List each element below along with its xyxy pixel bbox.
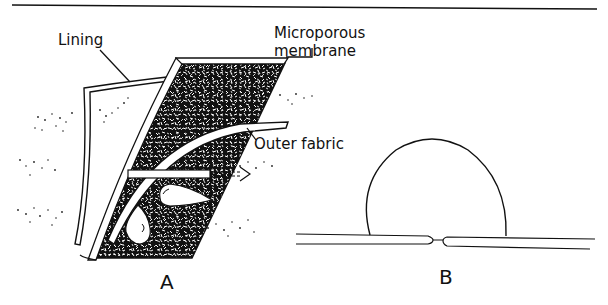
panel-label-b: B (439, 265, 453, 289)
top-rule (12, 5, 597, 9)
label-outer-fabric: Outer fabric (254, 137, 344, 153)
panel-a-drawing (17, 48, 313, 260)
water-droplet-dome (366, 139, 506, 236)
label-lining: Lining (58, 33, 103, 49)
vapor-channel (128, 170, 210, 178)
panel-b-drawing (296, 139, 595, 249)
membrane-left-segment (296, 234, 433, 244)
membrane-right-segment (443, 237, 595, 249)
panel-label-a: A (160, 270, 174, 294)
label-microporous-membrane-line1: Microporous (274, 26, 365, 42)
label-microporous-membrane-line2: membrane (274, 44, 356, 60)
lining-leader-line (100, 50, 130, 82)
